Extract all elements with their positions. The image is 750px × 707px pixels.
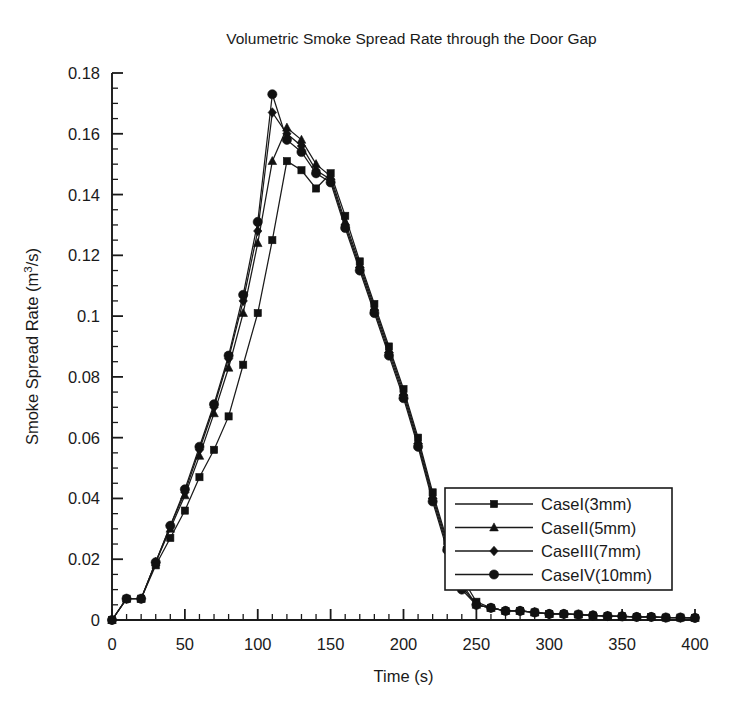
series-marker-4 bbox=[297, 147, 306, 156]
series-marker-4 bbox=[501, 606, 510, 615]
series-marker-4 bbox=[428, 497, 437, 506]
series-marker-4 bbox=[341, 223, 350, 232]
series-marker-4 bbox=[603, 611, 612, 620]
series-marker-1 bbox=[210, 446, 217, 453]
legend-label-4: CaseIV(10mm) bbox=[541, 566, 652, 584]
chart-container: Volumetric Smoke Spread Rate through the… bbox=[0, 0, 750, 707]
series-marker-4 bbox=[122, 594, 131, 603]
y-axis-tick-label: 0.04 bbox=[68, 489, 100, 507]
series-marker-4 bbox=[166, 521, 175, 530]
series-marker-4 bbox=[107, 615, 116, 624]
series-marker-4 bbox=[486, 603, 495, 612]
smoke-spread-rate-line-chart: Volumetric Smoke Spread Rate through the… bbox=[0, 0, 750, 707]
series-marker-2 bbox=[268, 157, 277, 165]
y-axis-tick-label: 0 bbox=[91, 611, 100, 629]
x-axis-tick-label: 150 bbox=[317, 635, 345, 653]
series-marker-4 bbox=[268, 90, 277, 99]
y-axis-tick-label: 0.02 bbox=[68, 550, 100, 568]
series-marker-4 bbox=[370, 308, 379, 317]
legend-label-1: CaseI(3mm) bbox=[541, 495, 632, 513]
series-marker-1 bbox=[312, 185, 319, 192]
x-axis-tick-label: 100 bbox=[244, 635, 272, 653]
legend-marker-circle bbox=[489, 570, 498, 579]
x-axis-tick-label: 200 bbox=[390, 635, 418, 653]
series-marker-4 bbox=[137, 594, 146, 603]
series-marker-4 bbox=[209, 400, 218, 409]
series-marker-4 bbox=[413, 442, 422, 451]
series-marker-1 bbox=[167, 534, 174, 541]
series-marker-4 bbox=[516, 606, 525, 615]
series-marker-4 bbox=[618, 612, 627, 621]
series-marker-4 bbox=[195, 442, 204, 451]
series-marker-4 bbox=[224, 351, 233, 360]
x-axis-tick-label: 300 bbox=[535, 635, 563, 653]
series-marker-4 bbox=[399, 394, 408, 403]
series-marker-1 bbox=[298, 167, 305, 174]
series-marker-4 bbox=[180, 485, 189, 494]
legend-label-2: CaseII(5mm) bbox=[541, 519, 636, 537]
series-marker-1 bbox=[181, 507, 188, 514]
y-axis-tick-label: 0.06 bbox=[68, 429, 100, 447]
series-marker-4 bbox=[355, 266, 364, 275]
series-marker-4 bbox=[384, 351, 393, 360]
series-marker-4 bbox=[311, 169, 320, 178]
x-axis-title: Time (s) bbox=[374, 667, 434, 685]
legend-marker-square bbox=[490, 500, 497, 507]
series-marker-4 bbox=[647, 612, 656, 621]
series-marker-4 bbox=[588, 611, 597, 620]
series-marker-1 bbox=[254, 309, 261, 316]
series-marker-1 bbox=[225, 413, 232, 420]
series-marker-4 bbox=[282, 135, 291, 144]
series-marker-1 bbox=[240, 361, 247, 368]
series-marker-4 bbox=[151, 558, 160, 567]
series-marker-1 bbox=[269, 237, 276, 244]
x-axis-tick-label: 400 bbox=[681, 635, 709, 653]
y-axis-title: Smoke Spread Rate (m3/s) bbox=[22, 248, 41, 445]
series-marker-4 bbox=[690, 613, 699, 622]
chart-title: Volumetric Smoke Spread Rate through the… bbox=[226, 30, 596, 47]
series-marker-4 bbox=[574, 610, 583, 619]
series-marker-4 bbox=[632, 612, 641, 621]
y-axis-tick-label: 0.1 bbox=[77, 307, 100, 325]
y-axis-tick-label: 0.08 bbox=[68, 368, 100, 386]
series-marker-4 bbox=[559, 609, 568, 618]
series-marker-4 bbox=[326, 178, 335, 187]
x-axis-tick-label: 50 bbox=[176, 635, 194, 653]
x-axis-tick-label: 350 bbox=[608, 635, 636, 653]
x-axis-tick-label: 0 bbox=[107, 635, 116, 653]
series-marker-4 bbox=[545, 609, 554, 618]
series-marker-1 bbox=[196, 474, 203, 481]
y-axis-tick-label: 0.18 bbox=[68, 64, 100, 82]
series-marker-4 bbox=[661, 613, 670, 622]
legend-label-3: CaseIII(7mm) bbox=[541, 542, 641, 560]
y-axis-tick-label: 0.14 bbox=[68, 186, 100, 204]
y-axis-tick-label: 0.12 bbox=[68, 246, 100, 264]
series-marker-4 bbox=[530, 608, 539, 617]
series-marker-1 bbox=[283, 158, 290, 165]
x-axis-tick-label: 250 bbox=[463, 635, 491, 653]
y-axis-tick-label: 0.16 bbox=[68, 125, 100, 143]
series-marker-4 bbox=[239, 290, 248, 299]
series-marker-4 bbox=[676, 613, 685, 622]
series-marker-4 bbox=[472, 600, 481, 609]
series-marker-4 bbox=[253, 217, 262, 226]
